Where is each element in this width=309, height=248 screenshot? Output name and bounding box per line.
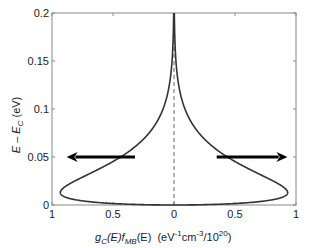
curve-right [174,13,288,205]
x-axis-label: gC(E)fMB(E) (eV-1cm-3/1020) [95,229,231,246]
curve-left [60,13,174,205]
chart: 10.500.5100.050.10.150.2 gC(E)fMB(E) (eV… [0,0,309,248]
y-tick-label: 0.05 [28,151,49,163]
arrows [67,152,288,162]
x-tick-label: 1 [49,208,55,220]
y-tick-label: 0.2 [34,7,49,19]
y-tick-label: 0.15 [28,55,49,67]
y-tick-label: 0.1 [34,103,49,115]
axis-ticks: 10.500.5100.050.10.150.2 [28,7,299,220]
x-tick-label: 0 [171,208,177,220]
y-axis-label: E – EC (eV) [10,97,25,154]
y-tick-label: 0 [43,199,49,211]
x-tick-label: 1 [293,208,299,220]
x-tick-label: 0.5 [227,208,242,220]
x-tick-label: 0.5 [105,208,120,220]
